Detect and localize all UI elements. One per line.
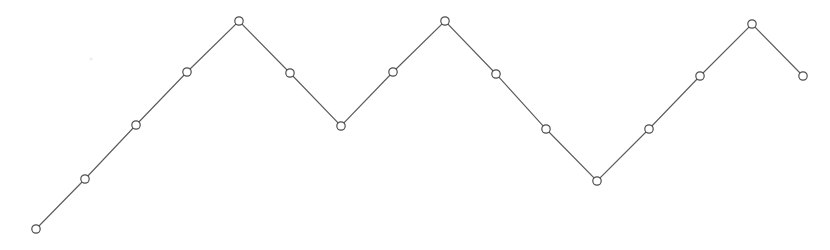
plot-background bbox=[0, 0, 830, 250]
data-point-marker bbox=[132, 121, 140, 129]
data-point-marker bbox=[492, 70, 500, 78]
image-speck bbox=[89, 57, 92, 60]
line-chart-plot bbox=[0, 0, 830, 250]
data-point-marker bbox=[542, 125, 550, 133]
data-point-marker bbox=[696, 72, 704, 80]
data-point-marker bbox=[32, 225, 40, 233]
data-point-marker bbox=[81, 175, 89, 183]
data-point-marker bbox=[337, 122, 345, 130]
data-point-marker bbox=[593, 177, 601, 185]
chart-container: Zigzag line chart with 16 open circle ma… bbox=[0, 0, 830, 250]
data-point-marker bbox=[645, 125, 653, 133]
data-point-marker bbox=[286, 69, 294, 77]
data-point-marker bbox=[389, 68, 397, 76]
data-point-marker bbox=[235, 17, 243, 25]
data-point-marker bbox=[748, 20, 756, 28]
image-artifact-layer bbox=[89, 57, 92, 60]
data-point-marker bbox=[799, 72, 807, 80]
data-point-marker bbox=[441, 17, 449, 25]
data-point-marker bbox=[183, 68, 191, 76]
